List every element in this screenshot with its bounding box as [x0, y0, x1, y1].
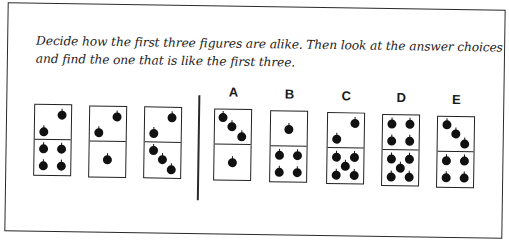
pip-icon [39, 161, 48, 170]
domino-top-half [328, 113, 365, 149]
pip-icon [405, 155, 414, 164]
pip-icon [284, 125, 293, 134]
pip-icon [149, 146, 158, 155]
pip-icon [405, 120, 414, 129]
domino-top-half [90, 107, 127, 143]
domino-bottom-half [327, 148, 364, 184]
pip-icon [218, 113, 227, 122]
pip-icon [387, 136, 396, 145]
pip-icon [149, 129, 158, 138]
example-domino-2 [88, 106, 127, 179]
pip-icon [332, 135, 341, 144]
instructions-text: Decide how the first three figures are a… [36, 32, 486, 75]
pip-icon [293, 168, 302, 177]
domino-bottom-half [382, 150, 419, 186]
pip-icon [167, 165, 176, 174]
choice-label-a: A [213, 84, 253, 100]
domino-bottom-half [214, 144, 251, 180]
pip-icon [460, 174, 469, 183]
pip-icon [451, 129, 460, 138]
choice-domino-c[interactable] [326, 112, 365, 185]
pip-icon [460, 140, 469, 149]
choice-label-b: B [269, 86, 309, 102]
domino-bottom-half [89, 142, 126, 178]
pip-icon [227, 122, 236, 131]
pip-icon [341, 162, 350, 171]
pip-icon [293, 151, 302, 160]
pip-icon [57, 145, 66, 154]
pip-icon [237, 132, 246, 141]
pip-icon [387, 119, 396, 128]
pip-icon [158, 155, 167, 164]
domino-bottom-half [270, 146, 307, 182]
pip-icon [94, 128, 103, 137]
pip-icon [39, 144, 48, 153]
pip-icon [350, 171, 359, 180]
pip-icon [442, 173, 451, 182]
pip-icon [275, 168, 284, 177]
pip-icon [332, 153, 341, 162]
example-domino-3 [143, 106, 182, 179]
pip-icon [442, 156, 451, 165]
example-domino-1 [33, 104, 72, 177]
domino-top-half [215, 109, 252, 145]
pip-icon [396, 164, 405, 173]
choice-domino-b[interactable] [269, 110, 308, 183]
choice-label-d: D [381, 90, 421, 106]
pip-icon [350, 119, 359, 128]
domino-top-half [35, 105, 72, 141]
choice-label-e: E [436, 92, 476, 108]
choice-domino-d[interactable] [381, 114, 420, 187]
pip-icon [442, 120, 451, 129]
pip-icon [405, 173, 414, 182]
domino-top-half [383, 115, 420, 151]
choice-label-c: C [326, 88, 366, 104]
pip-icon [460, 157, 469, 166]
domino-bottom-half [34, 140, 71, 176]
section-divider [197, 95, 200, 200]
pip-icon [39, 127, 48, 136]
pip-icon [275, 151, 284, 160]
pip-icon [167, 113, 176, 122]
domino-top-half [271, 111, 308, 147]
domino-top-half [438, 117, 475, 153]
choice-domino-e[interactable] [436, 116, 475, 189]
pip-icon [350, 153, 359, 162]
pip-icon [57, 162, 66, 171]
domino-top-half [145, 107, 182, 143]
pip-icon [332, 171, 341, 180]
pip-icon [103, 155, 112, 164]
pip-icon [228, 158, 237, 167]
pip-icon [57, 111, 66, 120]
pip-icon [387, 154, 396, 163]
domino-bottom-half [437, 152, 474, 188]
pip-icon [112, 112, 121, 121]
domino-bottom-half [144, 142, 181, 178]
question-frame: Decide how the first three figures are a… [4, 2, 505, 238]
pip-icon [405, 137, 414, 146]
pip-icon [387, 172, 396, 181]
choice-domino-a[interactable] [213, 108, 252, 181]
